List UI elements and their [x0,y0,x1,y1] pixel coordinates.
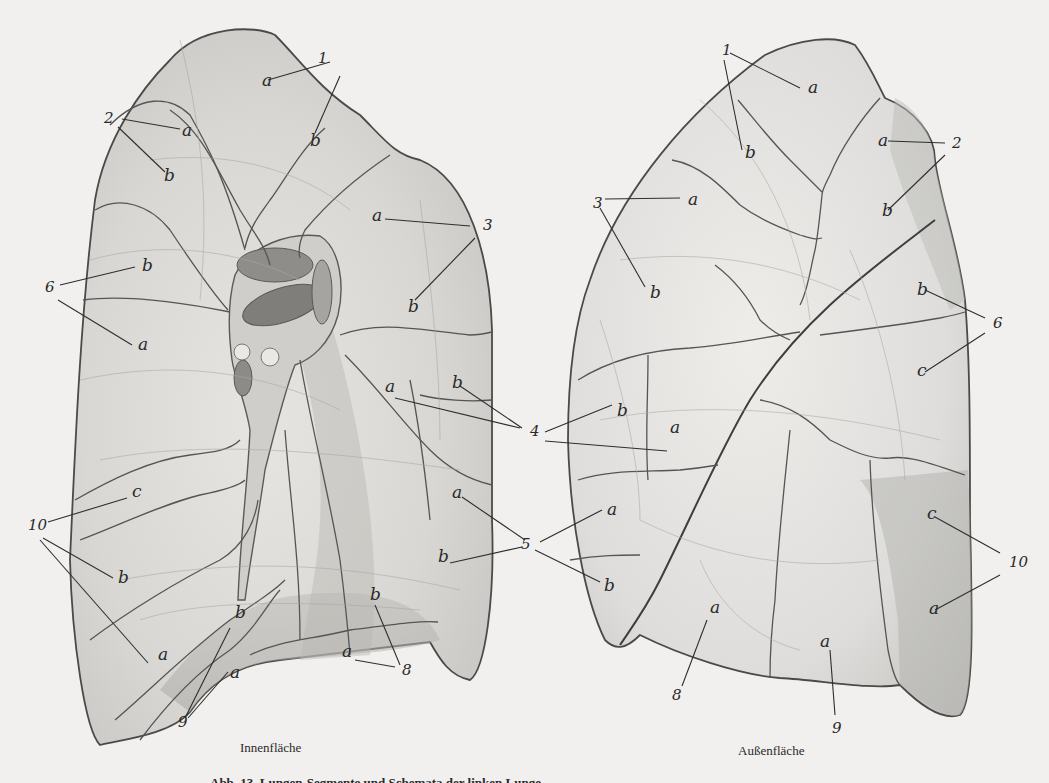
subsegment-letter-label: b [882,200,893,220]
caption-outer-surface: Außenfläche [738,743,804,759]
caption-inner-surface: Innenfläche [240,740,301,756]
lung-segments-figure: 1ab2aba3bb6aabc10baba9ba8ab 1aba2b3abb6c… [0,0,1049,783]
segment-number-label: 3 [483,216,493,234]
subsegment-letter-label: a [820,631,830,651]
subsegment-letter-label: a [607,499,617,519]
segment-number-label: 5 [521,535,531,553]
subsegment-letter-label: a [342,641,352,661]
segment-number-label: 2 [951,134,962,152]
subsegment-letter-label: b [408,296,419,316]
segment-number-label: 3 [593,194,603,212]
subsegment-letter-label: a [385,376,395,396]
subsegment-letter-label: b [370,584,381,604]
subsegment-letter-label: b [164,165,175,185]
subsegment-letter-label: b [617,400,628,420]
subsegment-letter-label: b [452,372,463,392]
subsegment-letter-label: a [878,130,888,150]
subsegment-letter-label: b [604,575,615,595]
subsegment-letter-label: c [132,481,142,501]
subsegment-letter-label: b [118,567,129,587]
figure-caption: Abb. 13. Lungen-Segmente und Schemata de… [210,772,541,783]
segment-number-label: 10 [28,516,48,534]
subsegment-letter-label: a [452,482,462,502]
segment-number-label: 10 [1009,553,1029,571]
segment-number-label: 9 [178,713,188,731]
segment-number-label: 1 [722,41,732,59]
subsegment-letter-label: c [927,503,937,523]
segment-number-label: 4 [529,422,540,440]
subsegment-letter-label: b [650,282,661,302]
subsegment-letter-label: a [808,77,818,97]
segment-number-label: 6 [45,278,55,296]
subsegment-letter-label: a [182,120,192,140]
subsegment-letter-label: a [230,662,240,682]
segment-number-label: 8 [672,686,682,704]
subsegment-letter-label: a [670,417,680,437]
segment-number-label: 9 [832,719,842,737]
subsegment-letter-label: c [917,360,927,380]
subsegment-letter-label: b [917,279,928,299]
subsegment-letter-label: a [158,644,168,664]
segment-number-label: 6 [993,314,1003,332]
subsegment-letter-label: b [310,130,321,150]
subsegment-letter-label: a [929,598,939,618]
segment-number-label: 1 [318,49,328,67]
subsegment-letter-label: a [710,597,720,617]
subsegment-letter-label: a [262,70,272,90]
subsegment-letter-label: b [235,602,246,622]
subsegment-letter-label: b [745,142,756,162]
subsegment-letter-label: a [688,189,698,209]
subsegment-letter-label: a [138,334,148,354]
segment-number-label: 2 [103,109,114,127]
subsegment-letter-label: b [142,255,153,275]
subsegment-letter-label: b [438,546,449,566]
segment-number-label: 8 [402,661,412,679]
subsegment-letter-label: a [372,205,382,225]
